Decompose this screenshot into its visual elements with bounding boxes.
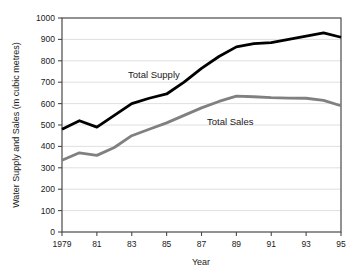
y-axis-title: Water Supply and Sales (m cubic metres) [11, 42, 21, 208]
y-axis-tick-labels: 01002003004005006007008009001000 [36, 13, 55, 237]
x-tick-label: 85 [162, 239, 172, 249]
series-label-total-supply: Total Supply [128, 69, 180, 80]
y-tick-label: 200 [41, 184, 55, 194]
series-line-total-sales [62, 96, 341, 160]
x-tick-label: 89 [232, 239, 242, 249]
y-tick-label: 1000 [36, 13, 55, 23]
y-tick-label: 300 [41, 163, 55, 173]
x-axis-title: Year [192, 257, 210, 267]
y-tick-label: 800 [41, 56, 55, 66]
y-tick-label: 0 [50, 227, 55, 237]
y-tick-label: 700 [41, 77, 55, 87]
line-chart: 01002003004005006007008009001000 1979818… [0, 0, 354, 280]
y-tick-label: 600 [41, 99, 55, 109]
x-tick-label: 93 [301, 239, 311, 249]
x-tick-label: 91 [267, 239, 277, 249]
gridlines [62, 39, 341, 210]
x-tick-label: 87 [197, 239, 207, 249]
x-tick-label: 81 [92, 239, 102, 249]
y-tick-label: 500 [41, 120, 55, 130]
y-tick-label: 400 [41, 141, 55, 151]
data-series [62, 33, 341, 160]
x-axis-tick-labels: 19798183858789919395 [53, 239, 346, 249]
x-axis-ticks [62, 232, 341, 236]
x-tick-label: 83 [127, 239, 137, 249]
x-tick-label: 1979 [53, 239, 72, 249]
series-label-total-sales: Total Sales [207, 116, 254, 127]
y-tick-label: 100 [41, 206, 55, 216]
x-tick-label: 95 [336, 239, 346, 249]
series-line-total-supply [62, 33, 341, 129]
y-tick-label: 900 [41, 34, 55, 44]
chart-container: 01002003004005006007008009001000 1979818… [0, 0, 354, 280]
